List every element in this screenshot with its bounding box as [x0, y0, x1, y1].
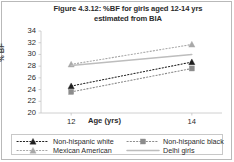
- legend-marker-square-gray: [126, 137, 160, 146]
- y-axis-tick-label: 26: [12, 74, 36, 82]
- chart-legend: Non-hispanic whiteNon-hispanic blackMexi…: [11, 134, 223, 155]
- legend-item-label: Non-hispanic black: [163, 137, 224, 146]
- legend-item[interactable]: Mexican American: [16, 146, 112, 155]
- chart-series: [68, 41, 195, 67]
- legend-marker-none: [126, 146, 160, 155]
- chart-series: [69, 66, 195, 94]
- y-axis-tick-label: 28: [12, 62, 36, 70]
- legend-item-label: Mexican American: [53, 146, 112, 155]
- chart-series: [71, 54, 192, 65]
- data-point-marker: [189, 59, 195, 65]
- x-axis-tick-labels: 1214: [41, 117, 222, 129]
- chart-title-line-1: Figure 4.3.12: %BF for girls aged 12-14 …: [54, 4, 203, 13]
- series-line: [71, 62, 192, 86]
- y-axis-tick-label: 20: [12, 109, 36, 117]
- legend-marker-triangle-filled-dark: [16, 137, 50, 146]
- y-axis-label: % BF: [0, 30, 6, 76]
- y-axis-tick-label: 34: [12, 27, 36, 35]
- series-line: [71, 54, 192, 65]
- legend-item[interactable]: Delhi girls: [126, 146, 195, 155]
- data-point-marker: [141, 139, 146, 144]
- figure-root: Figure 4.3.12: %BF for girls aged 12-14 …: [0, 0, 234, 162]
- legend-item-label: Delhi girls: [163, 146, 195, 155]
- data-point-marker: [189, 41, 195, 47]
- legend-marker-triangle-light: [16, 146, 50, 155]
- legend-item[interactable]: Non-hispanic white: [16, 137, 114, 146]
- chart-plot: [41, 31, 222, 113]
- y-axis-tick-label: 24: [12, 86, 36, 94]
- chart-title-line-2: estimated from BIA: [30, 14, 226, 24]
- data-point-marker: [68, 83, 74, 89]
- x-axis-tick-label: 12: [58, 117, 84, 126]
- y-axis-tick-label: 32: [12, 39, 36, 47]
- y-axis-tick-labels: 3432302826242220: [12, 26, 36, 118]
- data-point-marker: [69, 89, 74, 94]
- y-axis-tick-label: 30: [12, 50, 36, 58]
- y-axis-tick-label: 22: [12, 97, 36, 105]
- chart-title: Figure 4.3.12: %BF for girls aged 12-14 …: [30, 4, 226, 24]
- legend-item[interactable]: Non-hispanic black: [126, 137, 224, 146]
- series-line: [71, 68, 192, 91]
- legend-item-label: Non-hispanic white: [53, 137, 114, 146]
- x-axis-label: Age (yrs): [88, 116, 121, 125]
- plot-area: [41, 31, 222, 113]
- x-axis-tick-label: 14: [179, 117, 205, 126]
- series-line: [71, 44, 192, 64]
- data-point-marker: [189, 66, 194, 71]
